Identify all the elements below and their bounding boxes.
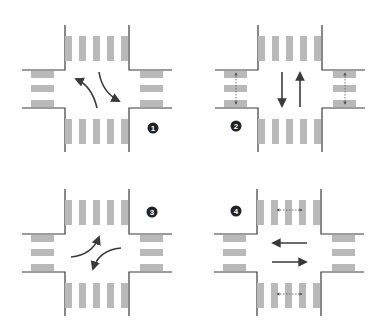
left-turn-arrow-icon [71, 237, 99, 257]
left-turn-arrow-icon [76, 79, 97, 108]
phase-badge-3: 3 [147, 207, 158, 218]
left-turn-arrow-icon [93, 248, 121, 269]
right-turn-arrow-icon [99, 72, 119, 101]
phase-2-panel: 2 [215, 25, 365, 152]
intersection-2 [215, 25, 365, 152]
phase-3-panel: 3 [22, 189, 172, 316]
svg-text:4: 4 [234, 207, 239, 216]
phase-1-panel: 1 [22, 25, 172, 152]
svg-text:1: 1 [151, 124, 156, 133]
intersection-phases-figure: 1 2 3 [0, 0, 387, 331]
svg-text:3: 3 [150, 208, 155, 217]
phase-4-panel: 4 [214, 189, 364, 316]
phase-badge-1: 1 [148, 123, 159, 134]
phase-badge-2: 2 [231, 121, 242, 132]
phase-badge-4: 4 [231, 206, 242, 217]
svg-text:2: 2 [234, 122, 239, 131]
diagram-svg: 1 2 3 [0, 0, 387, 331]
intersection-1 [22, 25, 172, 152]
